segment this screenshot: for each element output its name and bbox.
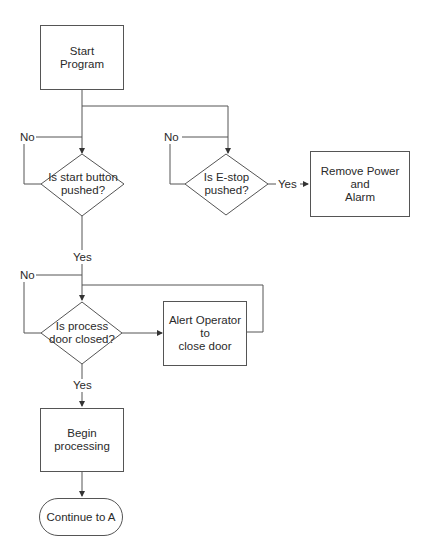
process-text-line2: processing <box>54 440 110 453</box>
alert-operator-box: Alert Operator toclose door <box>163 301 247 366</box>
estop-yes-label: Yes <box>277 178 298 191</box>
decision-text-line2: pushed? <box>48 184 118 197</box>
start-yes-label: Yes <box>72 251 93 264</box>
decision-text-line1: Is E-stop <box>204 171 249 184</box>
begin-processing-box: Beginprocessing <box>40 408 124 472</box>
start-no-label: No <box>19 131 36 144</box>
process-text-line2: Alarm <box>311 191 409 204</box>
start-text-line2: Program <box>60 58 104 71</box>
estop-decision: Is E-stoppushed? <box>185 168 268 200</box>
decision-text-line2: pushed? <box>204 184 249 197</box>
process-text-line1: Begin <box>54 427 110 440</box>
door-closed-decision: Is processdoor closed? <box>41 317 123 349</box>
continue-to-a-terminator: Continue to A <box>39 498 123 536</box>
door-no-label: No <box>19 269 36 282</box>
estop-no-label: No <box>163 131 180 144</box>
decision-text-line2: door closed? <box>49 333 115 346</box>
start-program-box: StartProgram <box>40 25 124 90</box>
door-yes-label: Yes <box>72 379 93 392</box>
process-text-line1: Alert Operator to <box>164 314 246 340</box>
terminator-text: Continue to A <box>46 511 115 524</box>
process-text-line2: close door <box>164 340 246 353</box>
remove-power-box: Remove Power andAlarm <box>310 151 410 217</box>
decision-text-line1: Is process <box>49 320 115 333</box>
process-text-line1: Remove Power and <box>311 165 409 191</box>
start-text-line1: Start <box>60 45 104 58</box>
decision-text-line1: Is start button <box>48 171 118 184</box>
start-button-decision: Is start buttonpushed? <box>41 168 125 200</box>
